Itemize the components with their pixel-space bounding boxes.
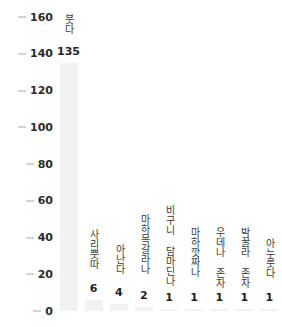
bar[interactable] <box>235 309 253 311</box>
bar-value-label: 1 <box>165 292 173 303</box>
bar[interactable] <box>135 307 153 311</box>
bar-value-label: 1 <box>215 292 223 303</box>
bar-category-label: 아누룻다 <box>264 238 275 278</box>
y-axis-tick-mark <box>26 163 34 165</box>
bar-category-label: 비구니 담마딘나 <box>164 205 175 286</box>
y-axis-tick-mark <box>18 126 26 128</box>
y-axis-tick-label: 100 <box>30 122 56 133</box>
bar[interactable] <box>160 309 178 311</box>
y-axis-tick-mark <box>26 200 34 202</box>
bar-category-label: 우데나 존자 <box>214 227 225 288</box>
bar[interactable] <box>210 309 228 311</box>
y-axis-tick-label: 80 <box>38 159 56 170</box>
bar-category-label: 사리뿟따 <box>88 229 99 269</box>
bar-value-label: 4 <box>115 287 123 298</box>
bar-group[interactable]: 1아누룻다 <box>257 0 282 311</box>
bar-value-label: 1 <box>190 292 198 303</box>
bar-group[interactable]: 1박꿀라 존자 <box>232 0 257 311</box>
bar-group[interactable]: 1비구니 담마딘나 <box>156 0 181 311</box>
y-axis-tick-label: 40 <box>38 232 56 243</box>
bar-value-label: 6 <box>90 283 98 294</box>
bar-category-label: 아난다 <box>114 244 125 274</box>
bar-chart: 020406080100120140160 135붓다6사리뿟따4아난다2마하목… <box>0 0 282 327</box>
bar[interactable] <box>60 63 78 311</box>
y-axis-tick-mark <box>26 237 34 239</box>
plot-area: 135붓다6사리뿟따4아난다2마하목갈라나1비구니 담마딘나1마하깟짜나1우데나… <box>56 0 282 327</box>
bar-group[interactable]: 1우데나 존자 <box>207 0 232 311</box>
y-axis-tick-label: 60 <box>38 195 56 206</box>
y-axis-tick-label: 160 <box>30 12 56 23</box>
y-axis-tick-mark <box>26 273 34 275</box>
y-axis-tick-label: 120 <box>30 85 56 96</box>
bar-value-label: 1 <box>266 292 274 303</box>
bar-group[interactable]: 2마하목갈라나 <box>131 0 156 311</box>
y-axis-tick-label: 20 <box>38 269 56 280</box>
y-axis-tick-mark <box>18 53 26 55</box>
y-axis-tick-label: 0 <box>45 306 56 317</box>
bar-group[interactable]: 4아난다 <box>106 0 131 311</box>
bar[interactable] <box>185 309 203 311</box>
y-axis-tick-mark <box>18 90 26 92</box>
bar-value-label: 1 <box>240 292 248 303</box>
bar-group[interactable]: 135붓다 <box>56 0 81 311</box>
bar-category-label: 마하깟짜나 <box>189 227 200 277</box>
y-axis: 020406080100120140160 <box>0 0 56 327</box>
bar-value-label: 135 <box>57 46 80 57</box>
bar-value-label: 2 <box>140 290 148 301</box>
bar-category-label: 붓다 <box>63 14 74 34</box>
bar-group[interactable]: 6사리뿟따 <box>81 0 106 311</box>
bar[interactable] <box>110 304 128 311</box>
bar-category-label: 박꿀라 존자 <box>239 227 250 288</box>
y-axis-tick-label: 140 <box>30 48 56 59</box>
y-axis-tick-mark <box>33 310 41 312</box>
bar[interactable] <box>85 300 103 311</box>
y-axis-tick-mark <box>18 16 26 18</box>
bar-category-label: 마하목갈라나 <box>139 214 150 274</box>
bar-group[interactable]: 1마하깟짜나 <box>182 0 207 311</box>
bar[interactable] <box>260 309 278 311</box>
